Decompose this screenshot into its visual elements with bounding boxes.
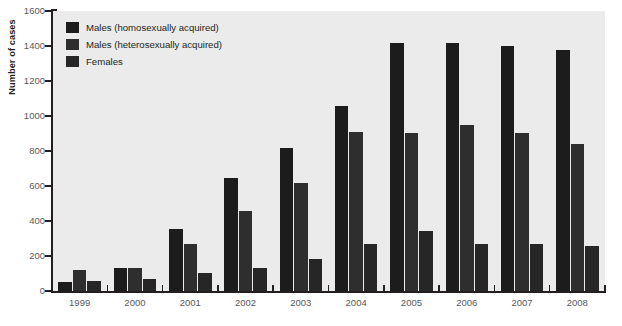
y-axis-title: Number of cases	[7, 2, 17, 112]
bar	[419, 231, 433, 291]
bar	[184, 244, 198, 291]
x-tick-label: 1999	[50, 297, 110, 308]
x-tick-label: 2001	[160, 297, 220, 308]
y-tick-label: 800	[5, 145, 45, 156]
bar	[530, 244, 544, 291]
y-tick-mark	[45, 255, 52, 257]
x-tick-label: 2004	[326, 297, 386, 308]
bar	[571, 144, 585, 291]
x-tick-mark	[549, 285, 551, 293]
y-tick-label: 200	[5, 250, 45, 261]
bar	[446, 43, 460, 291]
bar-group	[501, 11, 544, 291]
x-tick-mark	[107, 285, 109, 293]
y-tick-mark	[45, 150, 52, 152]
bar	[253, 268, 267, 291]
x-tick-label: 2005	[381, 297, 441, 308]
bar	[585, 246, 599, 291]
bar	[405, 133, 419, 291]
bar	[169, 229, 183, 291]
y-tick-mark	[45, 290, 52, 292]
bar	[224, 178, 238, 291]
bar-group	[335, 11, 378, 291]
bar	[58, 282, 72, 291]
y-tick-label: 0	[5, 285, 45, 296]
x-tick-mark	[272, 285, 274, 293]
legend-item: Males (heterosexually acquired)	[66, 37, 222, 52]
bar	[390, 43, 404, 291]
bar-group	[556, 11, 599, 291]
legend-swatch-icon	[66, 22, 79, 33]
x-tick-mark	[328, 285, 330, 293]
bar-group	[446, 11, 489, 291]
x-tick-label: 2006	[437, 297, 497, 308]
x-axis-right-cap	[604, 285, 606, 293]
bar	[556, 50, 570, 291]
bar	[460, 125, 474, 291]
bar	[128, 268, 142, 291]
bar	[501, 46, 515, 291]
y-tick-mark	[45, 80, 52, 82]
legend-item: Males (homosexually acquired)	[66, 20, 222, 35]
legend-swatch-icon	[66, 56, 79, 67]
x-tick-label: 2008	[547, 297, 607, 308]
chart-legend: Males (homosexually acquired)Males (hete…	[66, 20, 222, 71]
legend-swatch-icon	[66, 39, 79, 50]
legend-label: Males (heterosexually acquired)	[86, 39, 222, 50]
bar	[309, 259, 323, 291]
bar	[475, 244, 489, 291]
bar	[364, 244, 378, 291]
bar	[280, 148, 294, 291]
y-tick-label: 1000	[5, 110, 45, 121]
legend-label: Males (homosexually acquired)	[86, 22, 219, 33]
x-tick-label: 2002	[216, 297, 276, 308]
x-tick-mark	[217, 285, 219, 293]
bar	[143, 279, 157, 291]
y-tick-label: 1200	[5, 75, 45, 86]
y-tick-label: 1600	[5, 5, 45, 16]
legend-item: Females	[66, 54, 222, 69]
y-tick-mark	[45, 115, 52, 117]
x-tick-mark	[438, 285, 440, 293]
bar	[349, 132, 363, 291]
bar-chart-figure: Number of cases 020040060080010001200140…	[0, 0, 622, 326]
y-tick-label: 400	[5, 215, 45, 226]
legend-label: Females	[86, 56, 123, 67]
bar	[73, 270, 87, 291]
y-tick-mark	[45, 185, 52, 187]
y-tick-label: 1400	[5, 40, 45, 51]
x-tick-label: 2007	[492, 297, 552, 308]
y-tick-mark	[45, 45, 52, 47]
bar	[198, 273, 212, 291]
x-tick-mark	[494, 285, 496, 293]
x-tick-label: 2003	[271, 297, 331, 308]
y-tick-label: 600	[5, 180, 45, 191]
bar-group	[390, 11, 433, 291]
x-tick-mark	[383, 285, 385, 293]
bar-group	[224, 11, 267, 291]
bar	[114, 268, 128, 291]
bar	[239, 211, 253, 291]
y-tick-mark	[45, 220, 52, 222]
bar	[294, 183, 308, 292]
bar	[335, 106, 349, 292]
bar-group	[280, 11, 323, 291]
y-tick-mark	[45, 10, 52, 12]
x-tick-label: 2000	[105, 297, 165, 308]
x-tick-mark	[162, 285, 164, 293]
bar	[515, 133, 529, 291]
bar	[87, 281, 101, 292]
